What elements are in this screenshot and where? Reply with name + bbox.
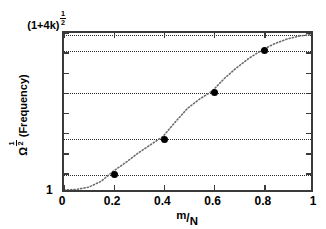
x-tick-1 xyxy=(114,185,116,190)
y-tick-8 xyxy=(64,33,69,34)
y-tick-8 xyxy=(306,33,311,34)
y-axis-max-label: (1+4k)12 xyxy=(27,10,66,32)
figure-container: (1+4k)12 1 Ω12 (Frequency) 00.20.40.60.8… xyxy=(0,0,326,229)
y-tick-3 xyxy=(64,133,69,135)
y-axis-title: Ω12 (Frequency) xyxy=(8,55,30,175)
x-axis-title: m/N xyxy=(176,209,198,228)
y-tick-7 xyxy=(306,52,311,54)
y-tick-1 xyxy=(64,173,69,175)
x-tick-1 xyxy=(114,33,116,38)
data-curve xyxy=(64,35,311,190)
x-tick-label-1: 0.2 xyxy=(104,194,121,208)
y-tick-7 xyxy=(64,52,69,54)
y-tick-4 xyxy=(306,113,311,115)
x-tick-label-0: 0 xyxy=(59,194,66,208)
x-axis-title-fraction: m/N xyxy=(176,209,198,228)
y-tick-5 xyxy=(64,93,69,95)
y-axis-title-exponent: 12 xyxy=(8,140,24,146)
data-point xyxy=(111,171,118,178)
y-axis-max-exponent-denominator: 2 xyxy=(60,19,66,27)
x-tick-3 xyxy=(214,33,216,38)
x-axis-title-denominator: N xyxy=(190,215,198,227)
x-tick-4 xyxy=(264,185,266,190)
x-tick-label-3: 0.6 xyxy=(204,194,221,208)
x-tick-4 xyxy=(264,33,266,38)
x-tick-2 xyxy=(164,33,166,38)
y-tick-6 xyxy=(306,73,311,75)
curve-svg xyxy=(64,33,311,190)
x-tick-2 xyxy=(164,185,166,190)
plot-area xyxy=(62,31,313,192)
y-tick-1 xyxy=(306,173,311,175)
y-tick-2 xyxy=(306,153,311,155)
y-tick-5 xyxy=(306,93,311,95)
x-tick-label-5: 1 xyxy=(310,194,317,208)
y-axis-max-base: (1+4k) xyxy=(27,19,59,31)
x-tick-0 xyxy=(64,33,65,38)
y-axis-title-exponent-denominator: 2 xyxy=(17,140,25,146)
y-axis-min-label: 1 xyxy=(46,184,53,197)
plot-inner xyxy=(64,33,311,190)
y-tick-3 xyxy=(306,133,311,135)
y-axis-title-symbol: Ω xyxy=(17,147,29,156)
y-tick-6 xyxy=(64,73,69,75)
x-tick-0 xyxy=(64,185,65,190)
x-tick-label-4: 0.8 xyxy=(254,194,271,208)
y-tick-4 xyxy=(64,113,69,115)
y-axis-title-suffix: (Frequency) xyxy=(17,74,29,137)
x-tick-label-2: 0.4 xyxy=(154,194,171,208)
y-axis-max-exponent: 12 xyxy=(60,10,66,26)
data-point xyxy=(161,136,168,143)
y-tick-2 xyxy=(64,153,69,155)
x-axis-title-numerator: m xyxy=(176,209,186,221)
x-tick-3 xyxy=(214,185,216,190)
